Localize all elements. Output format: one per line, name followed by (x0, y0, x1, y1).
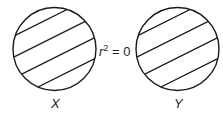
circle-y (123, 0, 223, 113)
venn-diagram: r2 = 0 X Y (0, 0, 223, 113)
circle-y-label: Y (174, 96, 184, 111)
circle-x-label: X (50, 96, 61, 111)
relation-label: r2 = 0 (99, 43, 130, 59)
relation-rest: = 0 (108, 44, 130, 59)
